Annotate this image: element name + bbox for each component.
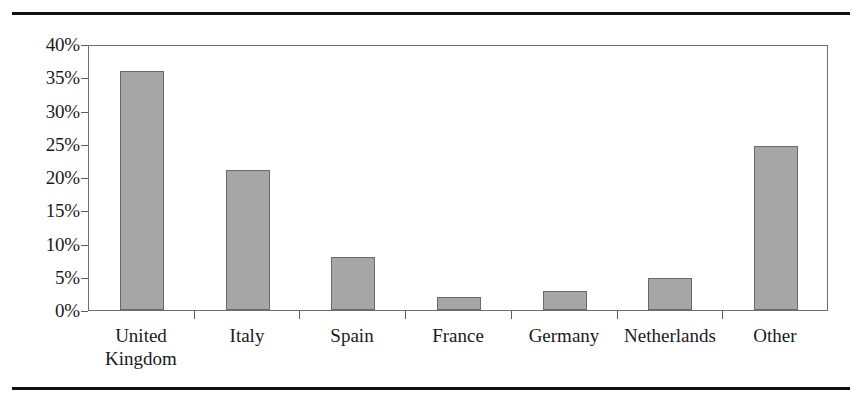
- y-axis: 0%5%10%15%20%25%30%35%40%: [8, 0, 80, 400]
- bar: [331, 257, 375, 310]
- x-axis-category-label: Other: [722, 324, 828, 347]
- y-axis-tick-label: 15%: [20, 201, 80, 220]
- bar: [648, 278, 692, 310]
- x-axis-tick-mark: [511, 311, 512, 319]
- bottom-rule: [12, 387, 850, 390]
- y-axis-tick-mark: [81, 211, 88, 212]
- y-axis-tick-label: 35%: [20, 68, 80, 87]
- x-axis-category-label: Italy: [194, 324, 300, 347]
- y-axis-tick-mark: [81, 78, 88, 79]
- y-axis-tick-label: 40%: [20, 35, 80, 54]
- y-axis-tick-mark: [81, 45, 88, 46]
- y-axis-tick-label: 30%: [20, 102, 80, 121]
- x-axis-category-label: Germany: [511, 324, 617, 347]
- y-axis-tick-label: 5%: [20, 268, 80, 287]
- y-axis-tick-mark: [81, 278, 88, 279]
- x-axis-category-label: United Kingdom: [88, 324, 194, 370]
- x-axis-category-label: Spain: [299, 324, 405, 347]
- y-axis-tick-mark: [81, 145, 88, 146]
- y-axis-tick-mark: [81, 311, 88, 312]
- plot-area: [88, 45, 828, 311]
- y-axis-tick-mark: [81, 245, 88, 246]
- x-axis-tick-mark: [405, 311, 406, 319]
- bar: [226, 170, 270, 310]
- bar: [754, 146, 798, 310]
- figure: 0%5%10%15%20%25%30%35%40% United Kingdom…: [0, 0, 861, 400]
- y-axis-tick-label: 0%: [20, 301, 80, 320]
- y-axis-tick-label: 10%: [20, 235, 80, 254]
- x-axis-tick-mark: [299, 311, 300, 319]
- x-axis-tick-mark: [722, 311, 723, 319]
- x-axis-category-label: Netherlands: [617, 324, 723, 347]
- x-axis-tick-mark: [194, 311, 195, 319]
- bar: [120, 71, 164, 310]
- bar: [543, 291, 587, 310]
- top-rule: [12, 12, 850, 15]
- x-axis-tick-mark: [617, 311, 618, 319]
- y-axis-tick-mark: [81, 112, 88, 113]
- y-axis-tick-label: 20%: [20, 168, 80, 187]
- bars-layer: [89, 46, 827, 310]
- y-axis-tick-mark: [81, 178, 88, 179]
- y-axis-tick-label: 25%: [20, 135, 80, 154]
- x-axis-category-label: France: [405, 324, 511, 347]
- bar: [437, 297, 481, 310]
